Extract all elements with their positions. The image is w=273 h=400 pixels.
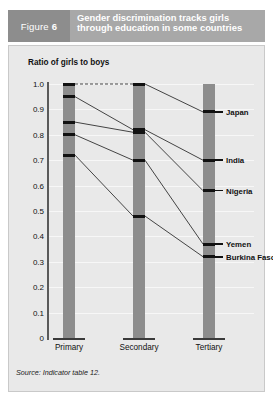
series-connector-line — [75, 135, 133, 160]
series-label: Burkina Faso — [226, 253, 273, 262]
series-label: India — [226, 156, 244, 165]
data-point-marker — [203, 189, 215, 192]
series-label-leader — [215, 111, 223, 113]
data-point-marker — [63, 83, 75, 86]
data-point-marker — [133, 215, 145, 218]
series-connector-line — [75, 122, 133, 132]
source-text: Indicator table 12. — [43, 368, 100, 377]
series-connector-line — [75, 155, 133, 216]
data-point-marker — [133, 159, 145, 162]
category-bar — [203, 84, 215, 338]
x-axis-tick-label: Tertiary — [196, 343, 223, 352]
series-connector-line — [145, 130, 203, 160]
x-axis-baseline — [193, 338, 225, 340]
series-label-leader — [215, 256, 223, 258]
series-label-leader — [215, 159, 223, 161]
data-point-marker — [133, 83, 145, 86]
series-label: Japan — [226, 108, 249, 117]
series-label-leader — [215, 243, 223, 245]
data-point-marker — [203, 255, 215, 258]
data-point-marker — [63, 133, 75, 136]
series-connector-line — [145, 132, 203, 190]
x-axis-baseline — [123, 338, 155, 340]
category-bar — [133, 84, 145, 338]
series-connector-line — [75, 97, 133, 130]
data-point-marker — [203, 159, 215, 162]
series-connector-line — [145, 216, 203, 257]
x-axis-baseline — [53, 338, 85, 340]
series-label: Nigeria — [226, 187, 252, 196]
data-point-marker — [203, 110, 215, 113]
source-label: Source: — [16, 368, 41, 377]
series-label: Yemen — [226, 240, 251, 249]
data-point-marker — [133, 131, 145, 134]
x-axis-tick-label: Primary — [55, 343, 83, 352]
series-connector-line — [145, 160, 203, 244]
data-point-marker — [203, 243, 215, 246]
figure-container: Figure 6 Gender discrimination tracks gi… — [0, 0, 273, 400]
source-note: Source: Indicator table 12. — [16, 368, 100, 377]
data-point-marker — [63, 95, 75, 98]
series-label-leader — [215, 190, 223, 192]
data-point-marker — [63, 154, 75, 157]
x-axis-tick-label: Secondary — [119, 343, 158, 352]
series-connector-line — [145, 84, 203, 112]
data-point-marker — [63, 121, 75, 124]
